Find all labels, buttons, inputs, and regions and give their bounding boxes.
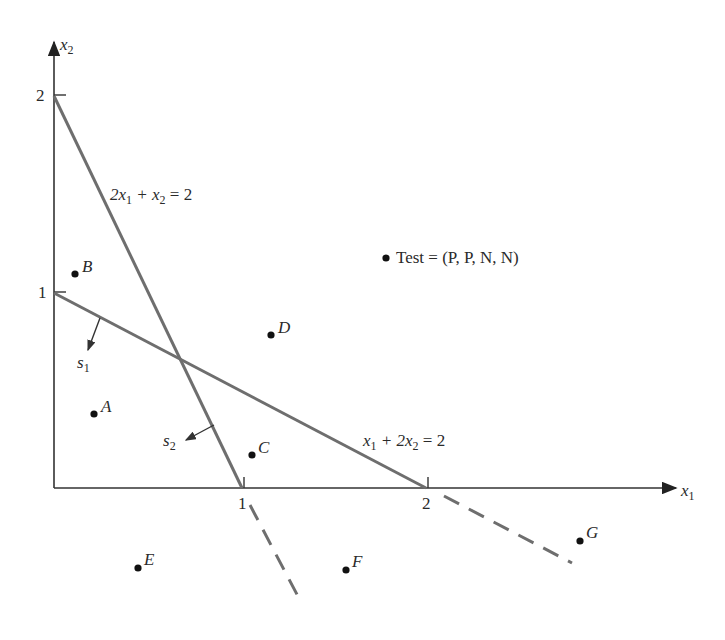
point-E (134, 564, 141, 571)
eq1-mid: + x (132, 185, 160, 204)
point-B (71, 270, 78, 277)
equation-line1: 2x1 + x2 = 2 (110, 186, 192, 206)
point-label-B: B (82, 258, 92, 275)
x2-axis-label-text: x (60, 35, 68, 54)
eq1-pre: 2x (110, 185, 126, 204)
s2-sub: 2 (170, 439, 176, 453)
eq1-post: = 2 (166, 185, 193, 204)
y-tick-label-1: 1 (38, 284, 47, 301)
normal-s2-arrow (186, 425, 214, 440)
s2-text: s (163, 431, 170, 450)
y-tick-label-2: 2 (36, 87, 45, 104)
diagram-canvas (0, 0, 725, 640)
line-x1-plus-2x2-dashed (444, 496, 572, 563)
x2-axis-label-sub: 2 (68, 43, 74, 57)
x-tick-label-1: 1 (238, 495, 247, 512)
x1-axis-label: x1 (681, 482, 695, 502)
point-C (248, 451, 255, 458)
x-tick-label-2: 2 (422, 495, 431, 512)
x2-axis-label: x2 (60, 36, 74, 56)
point-label-D: D (278, 319, 290, 336)
eq2-mid: + 2x (377, 431, 413, 450)
equation-line2: x1 + 2x2 = 2 (363, 432, 445, 452)
point-label-G: G (586, 524, 598, 541)
point-G (576, 537, 583, 544)
line-2x1-plus-x2-dashed (250, 505, 302, 604)
point-label-E: E (144, 551, 154, 568)
point-test (382, 254, 389, 261)
point-A (90, 410, 97, 417)
eq2-pre: x (363, 431, 371, 450)
normal-s1-arrow (88, 318, 100, 350)
eq2-post: = 2 (419, 431, 446, 450)
s1-sub: 1 (84, 361, 90, 375)
point-label-A: A (101, 398, 111, 415)
point-label-F: F (352, 553, 362, 570)
point-label-C: C (258, 439, 269, 456)
x1-axis-label-text: x (681, 481, 689, 500)
normal-s1-label: s1 (77, 354, 90, 374)
x1-axis-label-sub: 1 (689, 489, 695, 503)
point-F (342, 566, 349, 573)
line-2x1-plus-x2 (54, 96, 242, 488)
line-x1-plus-2x2 (54, 293, 426, 488)
point-D (267, 331, 274, 338)
test-point-label: Test = (P, P, N, N) (396, 249, 519, 266)
normal-s2-label: s2 (163, 432, 176, 452)
s1-text: s (77, 353, 84, 372)
